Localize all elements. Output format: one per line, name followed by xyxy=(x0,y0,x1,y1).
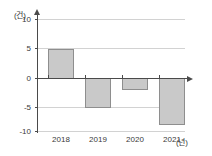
y-axis-arrow-icon xyxy=(34,9,40,15)
bar-2019 xyxy=(85,78,111,108)
x-tick-mark-1 xyxy=(48,75,49,79)
y-tick-mark-neg10 xyxy=(35,131,38,132)
x-tick-mark-3 xyxy=(122,75,123,79)
y-tick-label-5: 5 xyxy=(11,44,31,53)
x-tick-label-2020: 2020 xyxy=(118,135,152,144)
y-axis-line xyxy=(37,14,38,133)
y-tick-mark-5 xyxy=(35,48,38,49)
x-axis-arrow-icon xyxy=(187,76,193,82)
gridline-10 xyxy=(38,19,185,20)
x-tick-mark-2 xyxy=(85,75,86,79)
y-tick-label-10: 10 xyxy=(11,15,31,24)
x-tick-label-2021: 2021 xyxy=(155,135,189,144)
y-tick-label-neg10: -10 xyxy=(11,127,31,136)
bar-chart: (건) (년) 10 5 0 -5 -10 2018 2019 2020 202… xyxy=(0,0,212,156)
bar-2020 xyxy=(122,78,148,90)
y-tick-mark-10 xyxy=(35,19,38,20)
bar-2021 xyxy=(159,78,185,125)
x-tick-label-2019: 2019 xyxy=(81,135,115,144)
y-tick-label-neg5: -5 xyxy=(11,103,31,112)
x-axis-line xyxy=(38,78,188,79)
x-tick-mark-4 xyxy=(159,75,160,79)
gridline-neg10 xyxy=(38,131,185,132)
x-tick-label-2018: 2018 xyxy=(44,135,78,144)
y-tick-mark-neg5 xyxy=(35,107,38,108)
bar-2018 xyxy=(48,49,74,79)
y-tick-label-0: 0 xyxy=(11,74,31,83)
plot-area xyxy=(38,19,185,131)
